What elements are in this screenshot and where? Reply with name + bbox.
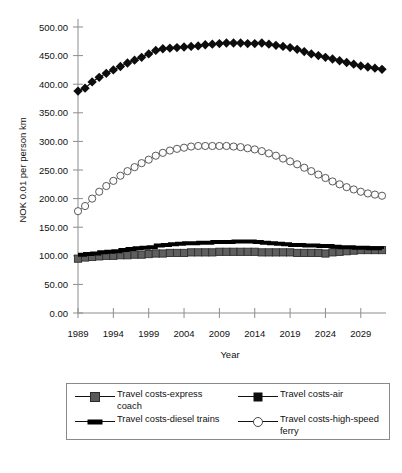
x-axis-title: Year [220,349,239,360]
data-point [180,249,187,256]
data-point [173,249,180,256]
data-point [265,249,272,256]
data-point [188,143,195,150]
data-point [188,249,195,256]
data-point [258,249,265,256]
data-point [110,177,117,184]
data-point [336,248,343,255]
data-point [237,248,244,255]
series-travel-costs-air [73,38,386,95]
data-point [124,252,131,259]
data-point [371,191,378,198]
data-point [335,56,344,65]
data-point [308,249,315,256]
data-point [350,186,357,193]
data-point [159,250,166,257]
axis-labels-group: 0.0050.00100.00150.00200.00250.00300.003… [17,22,371,361]
legend-label: Travel costs-express coach [117,389,229,412]
y-axis-tick-label: 0.00 [50,308,69,319]
data-point [342,58,351,67]
data-point [251,248,258,255]
series-line [78,146,382,211]
data-point [152,250,159,257]
data-point [223,248,230,255]
y-axis-tick-label: 200.00 [39,193,68,204]
data-point [138,251,145,258]
data-point [209,142,216,149]
data-point [349,60,358,69]
data-point [314,51,323,60]
data-point [230,143,237,150]
y-axis-tick-label: 400.00 [39,79,68,90]
data-point [370,64,379,73]
y-axis-tick-label: 50.00 [44,279,68,290]
x-axis-tick-label: 2014 [244,328,265,339]
data-point [258,148,265,155]
data-point [272,249,279,256]
data-point [322,174,329,181]
data-point [74,208,81,215]
legend-item-diesel-trains: Travel costs-diesel trains [67,414,230,439]
data-point [265,150,272,157]
square-icon [73,390,117,404]
circle-icon [236,415,280,429]
legend-label: Travel costs-high-speed ferry [280,414,391,437]
y-axis-tick-label: 150.00 [39,222,68,233]
series-travel-costs-high-speed-ferry [74,142,385,214]
data-point [336,181,343,188]
data-point [216,248,223,255]
legend-label: Travel costs-air [280,389,343,401]
data-point [251,146,258,153]
data-point [343,184,350,191]
data-point [272,152,279,159]
data-point [89,195,96,202]
data-point [356,61,365,70]
data-point [152,152,159,159]
data-point [271,41,280,50]
thick-line-icon [73,415,117,429]
x-axis-tick-label: 2019 [280,328,301,339]
data-point [124,168,131,175]
data-point [244,248,251,255]
data-point [230,248,237,255]
data-point [194,41,203,50]
y-axis-tick-label: 450.00 [39,50,68,61]
data-point [286,249,293,256]
legend-item-air: Travel costs-air [230,389,391,414]
data-point [166,147,173,154]
data-point [307,49,316,58]
data-point [216,142,223,149]
data-point [364,190,371,197]
y-axis-tick-label: 500.00 [39,22,68,33]
data-point [286,158,293,165]
data-point [103,182,110,189]
x-axis-tick-label: 2029 [350,328,371,339]
y-axis-tick-label: 100.00 [39,250,68,261]
data-point [315,249,322,256]
data-point [145,250,152,257]
data-point [328,54,337,63]
chart-container: 0.0050.00100.00150.00200.00250.00300.003… [0,0,402,473]
data-point [131,251,138,258]
chart-legend: Travel costs-express coach Travel costs-… [66,383,390,440]
legend-label: Travel costs-diesel trains [117,414,219,426]
y-axis-tick-label: 350.00 [39,107,68,118]
data-point [131,164,138,171]
data-point [308,168,315,175]
diamond-icon [236,390,280,404]
data-point [195,142,202,149]
data-point [357,188,364,195]
data-point [96,188,103,195]
y-axis-tick-label: 300.00 [39,136,68,147]
legend-item-high-speed-ferry: Travel costs-high-speed ferry [230,414,391,439]
legend-item-express-coach: Travel costs-express coach [67,389,230,414]
data-point [180,144,187,151]
data-point [285,43,294,52]
data-point [145,156,152,163]
data-point [173,145,180,152]
x-axis-tick-label: 1999 [138,328,159,339]
data-point [278,42,287,51]
data-point [279,155,286,162]
data-point [202,249,209,256]
data-point [329,178,336,185]
